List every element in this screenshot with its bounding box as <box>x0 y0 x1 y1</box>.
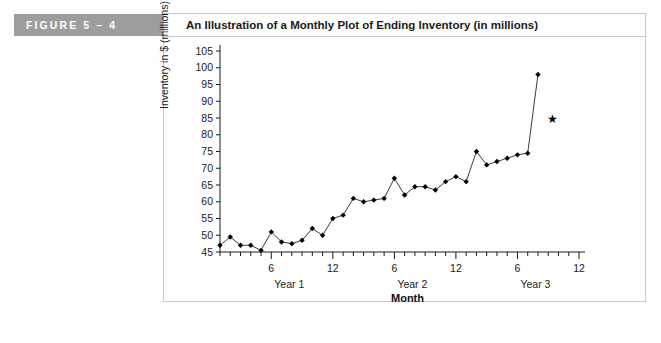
y-tick-label: 105 <box>195 45 213 57</box>
y-tick-label: 55 <box>201 212 213 224</box>
data-point-marker <box>535 72 540 77</box>
figure-number-label: FIGURE 5 – 4 <box>14 14 164 36</box>
year-group-label: Year 2 <box>397 278 427 290</box>
data-point-marker <box>422 184 427 189</box>
y-tick-label: 75 <box>201 145 213 157</box>
y-tick-label: 95 <box>201 78 213 90</box>
data-point-marker <box>351 196 356 201</box>
data-line <box>220 74 538 250</box>
year-group-label: Year 1 <box>274 278 304 290</box>
data-point-marker <box>515 152 520 157</box>
line-chart: 4550556065707580859095100105612612612Yea… <box>164 37 647 302</box>
x-axis-title: Month <box>391 292 424 302</box>
y-tick-label: 80 <box>201 128 213 140</box>
x-tick-label: 6 <box>515 262 521 274</box>
y-tick-label: 90 <box>201 95 213 107</box>
data-point-marker <box>330 216 335 221</box>
chart-plot-area: Inventory in $ (millions) 45505560657075… <box>164 37 647 302</box>
data-point-marker <box>505 156 510 161</box>
figure-content-box: An Illustration of a Monthly Plot of End… <box>163 13 646 302</box>
data-point-marker <box>525 150 530 155</box>
star-marker-icon: ★ <box>547 112 558 126</box>
data-point-marker <box>320 233 325 238</box>
x-tick-label: 6 <box>268 262 274 274</box>
figure-container: FIGURE 5 – 4 An Illustration of a Monthl… <box>0 0 661 343</box>
data-point-marker <box>381 196 386 201</box>
y-tick-label: 85 <box>201 112 213 124</box>
y-tick-label: 60 <box>201 195 213 207</box>
data-point-marker <box>248 243 253 248</box>
year-group-label: Year 3 <box>520 278 550 290</box>
y-tick-label: 65 <box>201 179 213 191</box>
y-tick-label: 100 <box>195 61 213 73</box>
x-tick-label: 12 <box>327 262 339 274</box>
x-tick-label: 12 <box>573 262 585 274</box>
page-title: An Illustration of a Monthly Plot of End… <box>164 19 538 31</box>
data-point-marker <box>340 212 345 217</box>
data-point-marker <box>289 241 294 246</box>
y-tick-label: 45 <box>201 246 213 258</box>
data-point-marker <box>453 174 458 179</box>
figure-title-bar: An Illustration of a Monthly Plot of End… <box>164 14 645 37</box>
y-tick-label: 70 <box>201 162 213 174</box>
x-tick-label: 12 <box>450 262 462 274</box>
data-point-marker <box>494 159 499 164</box>
y-tick-label: 50 <box>201 229 213 241</box>
data-point-marker <box>392 176 397 181</box>
data-point-marker <box>371 197 376 202</box>
data-point-marker <box>361 199 366 204</box>
x-tick-label: 6 <box>391 262 397 274</box>
data-point-marker <box>463 179 468 184</box>
